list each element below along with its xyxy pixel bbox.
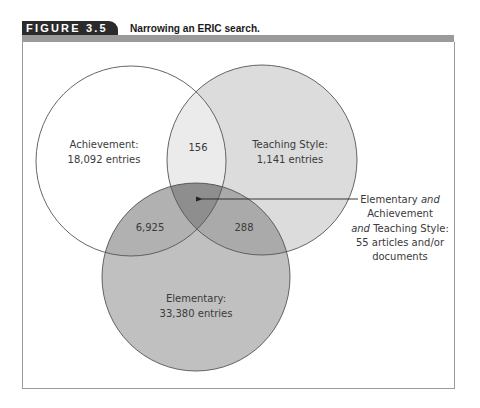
teaching-style-count: 1,141 entries: [257, 154, 323, 165]
svg-text:Elementary and: Elementary and: [360, 194, 440, 205]
achievement-teaching-count: 156: [188, 142, 207, 153]
venn-diagram: Achievement: 18,092 entries Teaching Sty…: [0, 0, 480, 408]
achievement-label: Achievement:: [69, 139, 138, 150]
achievement-count: 18,092 entries: [68, 154, 141, 165]
triple-intersection-annotation: Elementary and Achievement and Teaching …: [351, 194, 449, 262]
svg-text:Achievement: Achievement: [367, 208, 433, 219]
svg-text:55 articles and/or: 55 articles and/or: [356, 237, 445, 248]
svg-text:documents: documents: [372, 251, 428, 262]
elementary-count: 33,380 entries: [160, 308, 233, 319]
achievement-elementary-count: 6,925: [136, 222, 165, 233]
elementary-label: Elementary:: [166, 293, 226, 304]
svg-text:and Teaching Style:: and Teaching Style:: [351, 223, 449, 234]
teaching-style-label: Teaching Style:: [251, 139, 328, 150]
teaching-elementary-count: 288: [234, 222, 253, 233]
